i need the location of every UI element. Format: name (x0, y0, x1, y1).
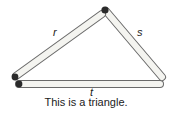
joint-left-lower (16, 81, 23, 88)
joint-top (101, 6, 108, 13)
caption: This is a triangle. (0, 96, 172, 108)
stick-r (16, 14, 102, 76)
stick-s (106, 11, 162, 77)
side-label-r: r (53, 26, 57, 38)
side-label-s: s (137, 26, 143, 38)
joint-left-upper (12, 74, 19, 81)
